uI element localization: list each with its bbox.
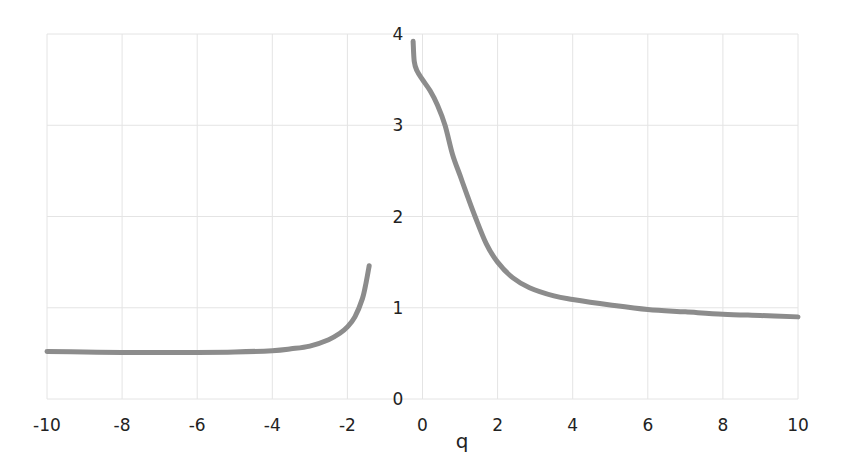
- chart-canvas: -10-8-6-4-20246810 01234 q: [0, 0, 848, 475]
- y-tick-label: 2: [393, 207, 404, 227]
- y-tick-label: 3: [393, 115, 404, 135]
- y-tick-label: 4: [393, 24, 404, 44]
- x-tick-label: -2: [339, 415, 356, 435]
- x-tick-label: 0: [417, 415, 428, 435]
- x-axis-label: q: [456, 429, 469, 453]
- grid-lines: [47, 34, 798, 399]
- x-tick-label: 6: [642, 415, 653, 435]
- x-tick-label: -8: [114, 415, 131, 435]
- y-axis-ticks: 01234: [393, 24, 404, 409]
- series-line-branch-right: [413, 41, 798, 317]
- x-axis-ticks: -10-8-6-4-20246810: [33, 415, 809, 435]
- y-tick-label: 0: [393, 389, 404, 409]
- x-tick-label: 10: [787, 415, 809, 435]
- y-tick-label: 1: [393, 298, 404, 318]
- series-line-branch-left: [47, 266, 369, 353]
- x-tick-label: 4: [567, 415, 578, 435]
- x-tick-label: -4: [264, 415, 281, 435]
- x-tick-label: -6: [189, 415, 206, 435]
- x-tick-label: -10: [33, 415, 61, 435]
- x-tick-label: 8: [717, 415, 728, 435]
- x-tick-label: 2: [492, 415, 503, 435]
